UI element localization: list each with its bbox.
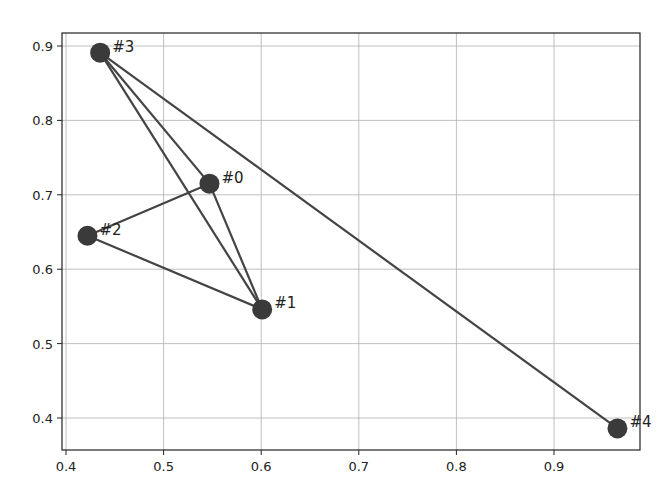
x-tick-label: 0.8 [446,459,467,474]
x-tick-label: 0.9 [544,459,565,474]
node-marker [607,418,627,438]
node-marker [252,299,272,319]
node-label: #3 [112,38,134,56]
graph-chart: 0.40.50.60.70.80.90.40.50.60.70.80.9#0#1… [0,0,662,502]
y-tick-label: 0.9 [32,39,53,54]
x-tick-label: 0.4 [56,459,77,474]
grid-lines [57,33,640,455]
graph-node: #3 [90,38,134,63]
x-tick-label: 0.6 [251,459,272,474]
node-label: #2 [99,221,121,239]
y-tick-label: 0.6 [32,262,53,277]
x-tick-label: 0.5 [153,459,174,474]
graph-node: #4 [607,413,651,438]
y-tick-label: 0.4 [32,411,53,426]
node-marker [199,174,219,194]
edges [87,53,617,429]
x-tick-label: 0.7 [348,459,369,474]
node-label: #1 [274,294,296,312]
y-tick-label: 0.8 [32,113,53,128]
node-marker [77,226,97,246]
graph-edge [100,53,209,184]
node-label: #0 [221,169,243,187]
y-tick-label: 0.7 [32,188,53,203]
graph-node: #1 [252,294,296,319]
node-marker [90,43,110,63]
graph-node: #0 [199,169,243,194]
y-tick-label: 0.5 [32,337,53,352]
axes-frame [62,33,640,450]
